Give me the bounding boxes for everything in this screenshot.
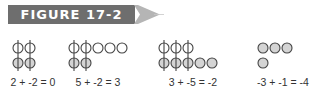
equation-3: 3 + -5 = -2 — [163, 76, 223, 90]
equation-2: 5 + -2 = 3 — [70, 76, 126, 90]
group-4-chips — [258, 43, 292, 68]
group-2-chips — [69, 40, 127, 71]
equation-4: -3 + -1 = -4 — [252, 76, 314, 90]
equation-1: 2 + -2 = 0 — [6, 76, 60, 90]
group-3-chips — [159, 40, 217, 71]
group-1-chips — [13, 40, 35, 71]
